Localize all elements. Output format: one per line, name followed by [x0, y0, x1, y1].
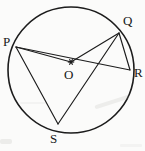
- center-dot: [70, 61, 73, 64]
- point-label-R: R: [134, 65, 143, 80]
- circle-geometry-figure: PQRSO: [0, 0, 145, 151]
- circle-diagram-canvas: PQRSO: [0, 0, 145, 151]
- segment-PS: [16, 47, 58, 124]
- point-label-Q: Q: [123, 13, 133, 28]
- point-label-P: P: [3, 34, 10, 49]
- segment-PO: [16, 47, 71, 62]
- segment-QR: [119, 33, 130, 70]
- segment-QO: [71, 33, 119, 62]
- point-label-S: S: [50, 131, 57, 146]
- point-label-O: O: [64, 67, 73, 82]
